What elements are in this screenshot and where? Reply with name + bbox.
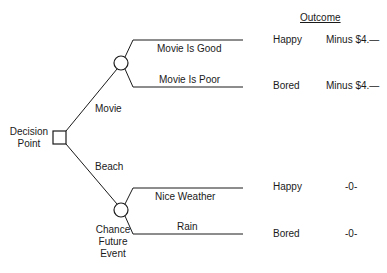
chance-label-line3: Event [93, 248, 133, 260]
branch-movie-good-label: Movie Is Good [157, 43, 221, 55]
decision-node-square [53, 131, 66, 144]
branch-movie-poor-label: Movie Is Poor [159, 74, 220, 86]
outcome-movie-poor: Bored [273, 80, 300, 92]
decision-point-label: Decision Point [8, 126, 50, 150]
alternative-movie-label: Movie [95, 103, 122, 115]
movie-branch-line [66, 69, 117, 131]
chance-future-event-label: Chance Future Event [93, 224, 133, 260]
outcome-rain: Bored [273, 228, 300, 240]
branch-nice-weather-label: Nice Weather [155, 191, 215, 203]
decision-label-line2: Point [8, 138, 50, 150]
value-rain: -0- [345, 228, 357, 240]
movie-chance-node-circle [114, 56, 128, 70]
branch-rain-label: Rain [177, 221, 198, 233]
outcome-movie-good: Happy [273, 34, 302, 46]
value-movie-good: Minus $4.— [326, 34, 379, 46]
chance-label-line1: Chance [93, 224, 133, 236]
value-movie-poor: Minus $4.— [326, 80, 379, 92]
chance-label-line2: Future [93, 236, 133, 248]
value-nice-weather: -0- [345, 181, 357, 193]
outcome-nice-weather: Happy [273, 181, 302, 193]
alternative-beach-label: Beach [95, 161, 123, 173]
beach-chance-node-circle [114, 203, 128, 217]
outcome-header: Outcome [300, 12, 341, 24]
beach-branch-line [66, 144, 117, 204]
decision-label-line1: Decision [8, 126, 50, 138]
